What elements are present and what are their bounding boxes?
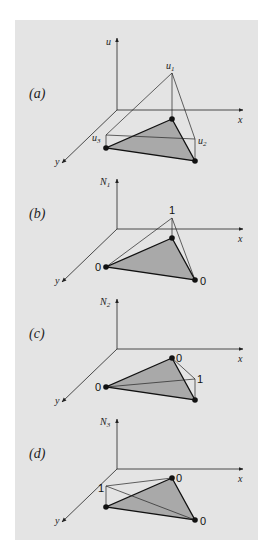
x-axis-label: x	[237, 114, 243, 125]
node-1	[169, 355, 175, 361]
node-value-1: 1	[169, 204, 175, 216]
panel-d-label: (d)	[29, 446, 46, 462]
node-value-1: 0	[176, 352, 182, 364]
y-axis-label: y	[54, 395, 60, 406]
node-value-1: 0	[176, 472, 182, 484]
panel-c-label: (c)	[29, 326, 45, 342]
y-axis-label: y	[54, 275, 60, 286]
node-1	[169, 475, 175, 481]
panel-b-label: (b)	[29, 206, 46, 222]
node-value-2: 0	[200, 515, 206, 527]
y-axis-label: y	[54, 515, 60, 526]
x-axis-label: x	[237, 233, 243, 244]
node-1	[169, 235, 175, 241]
node-2	[192, 397, 198, 403]
node-2	[192, 517, 198, 523]
x-axis-label: x	[237, 473, 243, 484]
node-value-2: 0	[200, 275, 206, 287]
node-value-2: 1	[197, 373, 203, 385]
node-3	[103, 264, 109, 270]
u-axis-label: u	[106, 36, 111, 47]
node-2	[192, 277, 198, 283]
node-2	[192, 158, 198, 164]
panel-a-label: (a)	[29, 86, 46, 102]
x-axis-label: x	[237, 353, 243, 364]
node-3	[103, 384, 109, 390]
node-3	[103, 145, 109, 151]
y-axis-label: y	[54, 156, 60, 167]
linear-triangle-shape-functions-figure: (a) u x y u1 u2 u3 (b) N1 x y	[0, 0, 270, 558]
figure-panel-background	[15, 20, 258, 540]
node-value-3: 0	[95, 261, 101, 273]
node-1	[169, 116, 175, 122]
node-3	[103, 504, 109, 510]
node-value-3: 0	[95, 381, 101, 393]
node-value-3: 1	[98, 482, 104, 494]
